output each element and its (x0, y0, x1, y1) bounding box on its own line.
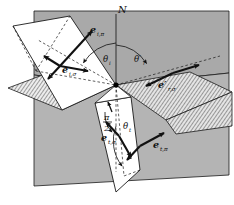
incidence-angle-label-main: θ (103, 54, 108, 64)
optics-diagram-figure: N e i,π e i,σ e′ r,σ e t,σ e t,π θ i (0, 0, 234, 205)
incident-pi-vector-label-main: e (90, 24, 96, 35)
transmitted-pi-vector-label-sub: t,π (160, 146, 168, 152)
right-angle-label-numerator: π (103, 113, 110, 122)
reflected-sigma-vector-label-sub: r,σ (168, 86, 176, 92)
incident-sigma-vector-label-main: e (62, 64, 68, 75)
incident-sigma-vector-label-sub: i,σ (69, 71, 77, 77)
transmitted-pi-vector-label-main: e (153, 139, 159, 150)
reflected-sigma-vector-label-main: e′ (158, 79, 167, 90)
reflection-angle-label-sub: r (143, 60, 146, 66)
reflection-angle-label-main: θ′ (134, 54, 141, 64)
right-angle-label-denominator: 2 (103, 124, 109, 133)
transmitted-sigma-vector-label-sub: t,σ (108, 139, 116, 145)
incident-pi-vector-label-sub: i,π (97, 31, 105, 37)
incidence-angle-label-sub: i (109, 60, 111, 66)
origin-point (113, 82, 118, 87)
transmission-angle-label-main: θ (123, 121, 128, 131)
transmitted-sigma-vector-label-main: e (101, 132, 107, 143)
normal-axis-label: N (117, 4, 128, 15)
diagram-canvas: N e i,π e i,σ e′ r,σ e t,σ e t,π θ i (0, 0, 234, 205)
